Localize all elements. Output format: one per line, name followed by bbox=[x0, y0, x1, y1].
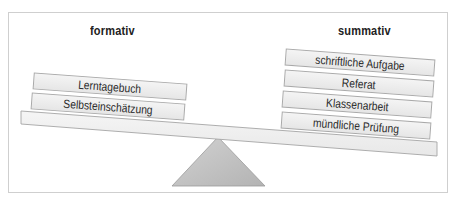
item-label: Klassenarbeit bbox=[325, 95, 388, 114]
fulcrum-triangle bbox=[172, 137, 265, 186]
item-label: Referat bbox=[342, 75, 377, 91]
item-label: Lerntagebuch bbox=[78, 77, 142, 96]
